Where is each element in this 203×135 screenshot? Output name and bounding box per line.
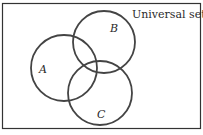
set-b-label: B: [109, 22, 118, 35]
set-a-label: A: [38, 63, 47, 76]
set-c-label: C: [97, 108, 106, 121]
venn-diagram: Universal set B A C: [0, 0, 203, 135]
universal-set-label: Universal set: [132, 8, 203, 21]
set-b-circle: [73, 11, 135, 73]
